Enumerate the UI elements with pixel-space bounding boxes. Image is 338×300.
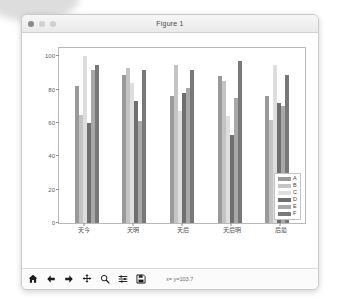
y-tick-label: 20 (48, 187, 59, 193)
forward-arrow-icon[interactable] (62, 273, 75, 286)
x-tick-mark (231, 223, 232, 226)
bar-f (190, 70, 194, 223)
chart-legend: ABCDEF (274, 173, 301, 220)
bar-group (75, 48, 99, 223)
bar-chart: 020406080100 今天明天后天明后天最后 ABCDEF (22, 33, 318, 268)
x-tick-label: 最后 (274, 227, 286, 233)
legend-item: E (278, 204, 297, 210)
legend-label: E (293, 204, 297, 210)
coordinate-readout: x= y=103.7 (166, 276, 193, 282)
pan-move-icon[interactable] (80, 273, 93, 286)
bar-f (238, 61, 242, 223)
home-icon[interactable] (26, 273, 39, 286)
y-tick-label: 60 (48, 120, 59, 126)
legend-item: D (278, 197, 297, 203)
bar-group (170, 48, 194, 223)
x-tick-mark (83, 223, 84, 226)
y-tick-mark (56, 189, 59, 190)
back-arrow-icon[interactable] (44, 273, 57, 286)
legend-label: A (293, 176, 297, 182)
y-tick-mark (56, 89, 59, 90)
axes-frame: 020406080100 今天明天后天明后天最后 ABCDEF (58, 47, 306, 224)
legend-label: D (293, 197, 297, 203)
legend-item: C (278, 190, 297, 196)
x-tick-mark (280, 223, 281, 226)
sliders-configure-icon[interactable] (116, 273, 129, 286)
figure-canvas[interactable]: 020406080100 今天明天后天明后天最后 ABCDEF (22, 33, 318, 268)
x-tick-mark (182, 223, 183, 226)
legend-item: F (278, 211, 297, 217)
bar-group (218, 48, 242, 223)
legend-label: C (293, 190, 297, 196)
legend-swatch-e (278, 205, 291, 209)
legend-label: B (293, 183, 297, 189)
legend-label: F (293, 211, 296, 217)
legend-item: A (278, 176, 297, 182)
window-title: Figure 1 (22, 20, 318, 27)
y-tick-label: 0 (52, 220, 59, 226)
y-tick-mark (56, 55, 59, 56)
bar-group (122, 48, 146, 223)
close-window-button[interactable] (28, 21, 34, 27)
x-tick-label: 今天 (78, 227, 90, 233)
legend-swatch-f (278, 212, 291, 216)
legend-item: B (278, 183, 297, 189)
bar-f (95, 65, 99, 223)
matplotlib-navigation-toolbar: x= y=103.7 (22, 268, 318, 289)
x-tick-label: 后天 (176, 227, 188, 233)
bar-f (142, 70, 146, 223)
legend-swatch-c (278, 191, 291, 195)
window-titlebar: Figure 1 (22, 15, 318, 33)
minimize-window-button[interactable] (39, 21, 45, 27)
legend-swatch-d (278, 198, 291, 202)
figure-window: Figure 1 020406080100 今天明天后天明后天最后 ABCDEF (21, 14, 319, 290)
y-tick-mark (56, 222, 59, 223)
screenshot-root: Figure 1 020406080100 今天明天后天明后天最后 ABCDEF (0, 0, 338, 300)
maximize-window-button[interactable] (50, 21, 56, 27)
x-tick-mark (132, 223, 133, 226)
y-tick-mark (56, 155, 59, 156)
magnifier-zoom-icon[interactable] (98, 273, 111, 286)
y-tick-label: 80 (48, 87, 59, 93)
y-tick-label: 40 (48, 153, 59, 159)
y-tick-mark (56, 122, 59, 123)
x-tick-label: 明后天 (222, 227, 240, 233)
y-tick-label: 100 (45, 53, 59, 59)
plot-area (59, 48, 305, 223)
traffic-light-group (28, 15, 56, 32)
floppy-save-icon[interactable] (134, 273, 147, 286)
x-tick-label: 明天 (127, 227, 139, 233)
legend-swatch-a (278, 177, 291, 181)
legend-swatch-b (278, 184, 291, 188)
